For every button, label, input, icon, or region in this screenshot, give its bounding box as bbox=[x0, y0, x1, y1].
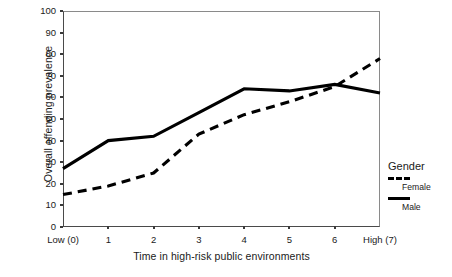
x-axis-title: Time in high-risk public environments bbox=[63, 250, 380, 262]
series-line-male bbox=[63, 84, 380, 168]
series-line-female bbox=[63, 59, 380, 195]
legend-item-female: Female bbox=[388, 173, 452, 193]
legend: Gender Female Male bbox=[388, 160, 452, 213]
legend-item-male: Male bbox=[388, 193, 452, 213]
solid-line-swatch-icon bbox=[388, 197, 410, 200]
legend-label-male: Male bbox=[402, 202, 421, 212]
legend-label-female: Female bbox=[402, 182, 431, 192]
line-chart: Overall offending prevalence 01020304050… bbox=[0, 0, 452, 277]
series-layer bbox=[0, 0, 452, 277]
dashed-line-swatch-icon bbox=[388, 177, 410, 180]
legend-title: Gender bbox=[388, 160, 452, 173]
